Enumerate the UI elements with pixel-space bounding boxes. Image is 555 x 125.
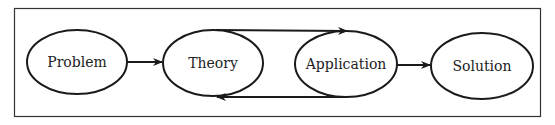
node-label-problem: Problem: [47, 54, 107, 70]
node-label-application: Application: [305, 56, 387, 72]
flow-diagram: Problem Theory Application Solution: [0, 0, 555, 125]
node-application: Application: [295, 31, 397, 97]
node-label-theory: Theory: [188, 55, 238, 71]
node-theory: Theory: [163, 30, 263, 96]
node-problem: Problem: [27, 30, 127, 94]
node-label-solution: Solution: [452, 58, 511, 74]
arrow-theory-to-application: [216, 30, 347, 31]
node-solution: Solution: [431, 33, 533, 99]
